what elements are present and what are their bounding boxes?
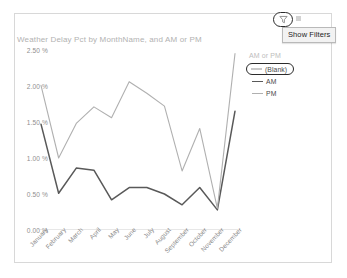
chart-series-line[interactable] [41,111,235,210]
legend-color-swatch [252,93,263,95]
legend-color-swatch [252,81,263,83]
chevron-down-icon[interactable] [296,16,301,21]
legend-item[interactable]: PM [249,88,319,99]
x-axis-tick-label: July [142,226,155,239]
legend-item-label: AM [266,78,276,85]
show-filters-button[interactable]: Show Filters [282,27,336,43]
legend-item-label: (Blank) [265,66,287,73]
legend-items: (Blank)AMPM [249,63,319,99]
visual-header-toolbar: Show Filters [268,12,346,44]
chart-plot-area: 2.50 %2.00 %1.50 %1.00 %0.50 %0.00 % Jan… [14,50,244,275]
funnel-filter-icon [279,15,288,24]
x-axis-tick-label: April [88,226,102,240]
legend-item[interactable]: (Blank) [246,63,294,75]
chart-title: Weather Delay Pct by MonthName, and AM o… [17,35,202,44]
filter-icon-button[interactable] [273,12,293,27]
legend-title: AM or PM [249,52,319,59]
x-axis-tick-label: March [67,226,85,244]
x-axis-tick-label: June [122,226,137,241]
line-chart-svg [38,50,238,230]
legend-item[interactable]: AM [249,76,319,87]
legend-color-swatch [251,68,262,70]
x-axis: JanuaryFebruaryMarchAprilMayJuneJulyAugu… [38,226,238,274]
chart-series-line[interactable] [41,54,235,209]
chart-legend: AM or PM (Blank)AMPM [249,52,319,100]
legend-item-label: PM [266,90,276,97]
x-axis-tick-label: May [106,226,120,240]
